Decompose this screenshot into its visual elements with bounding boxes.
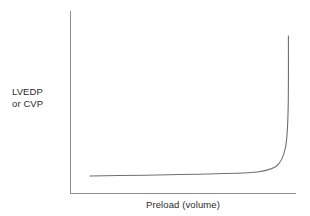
x-axis-label: Preload (volume) xyxy=(70,199,296,211)
compliance-curve-line xyxy=(90,36,288,176)
y-axis-label: LVEDP or CVP xyxy=(12,86,62,110)
y-axis-label-line-2: or CVP xyxy=(12,98,62,110)
y-axis-label-line-1: LVEDP xyxy=(12,86,62,98)
chart-figure: LVEDP or CVP Preload (volume) xyxy=(0,0,310,216)
chart-axes xyxy=(71,11,297,194)
